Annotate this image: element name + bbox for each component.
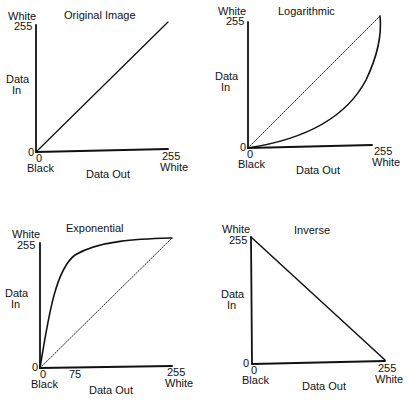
x-tick-white: White: [160, 162, 188, 173]
x-axis: [40, 366, 172, 368]
y-tick-0: 0: [28, 147, 34, 158]
y-axis: [251, 237, 252, 364]
x-tick-black: Black: [242, 375, 269, 386]
reference-line: [40, 238, 172, 368]
x-tick-black: Black: [31, 379, 58, 390]
x-tick-black: Black: [27, 163, 54, 174]
chart-exponential: [40, 238, 172, 368]
x-axis: [248, 145, 372, 148]
y-axis-label-2: In: [11, 299, 20, 310]
x-tick-black: Black: [238, 159, 265, 170]
x-axis-label: Data Out: [86, 169, 130, 180]
chart-title: Exponential: [66, 223, 124, 234]
x-axis-label: Data Out: [296, 165, 340, 176]
y-tick-0: 0: [243, 358, 249, 369]
x-axis-label: Data Out: [302, 381, 346, 392]
y-tick-255: 255: [226, 16, 244, 27]
y-tick-0: 0: [240, 142, 246, 153]
y-tick-255: 255: [14, 21, 32, 32]
y-tick-255: 255: [229, 235, 247, 246]
y-axis-label-2: In: [12, 85, 21, 96]
chart-title: Original Image: [64, 10, 136, 21]
chart-title: Logarithmic: [278, 6, 335, 17]
y-tick-0: 0: [32, 362, 38, 373]
chart-original: [36, 22, 168, 152]
y-tick-255: 255: [17, 240, 35, 251]
x-tick-75: 75: [69, 369, 81, 380]
y-axis-label-2: In: [227, 300, 236, 311]
x-tick-white: White: [372, 157, 400, 168]
x-axis: [252, 361, 385, 364]
x-axis-label: Data Out: [89, 385, 133, 396]
x-axis: [36, 149, 168, 152]
x-tick-white: White: [165, 378, 193, 389]
identity-line: [36, 22, 168, 152]
y-axis-label-2: In: [221, 82, 230, 93]
chart-inverse: [251, 237, 385, 364]
inverse-line: [251, 237, 385, 360]
chart-logarithmic: [248, 16, 380, 148]
chart-title: Inverse: [294, 225, 330, 236]
transfer-curves-figure: [0, 0, 416, 400]
x-tick-white: White: [375, 374, 403, 385]
